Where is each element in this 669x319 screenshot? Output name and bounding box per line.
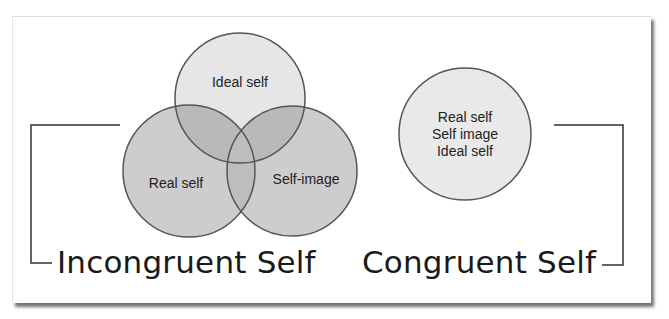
congruent-ideal-self-label: Ideal self [432,143,498,160]
congruent-self-image-label: Self image [432,126,498,143]
congruent-self-title: Congruent Self [362,247,596,278]
self-image-label: Self-image [273,171,340,188]
incongruent-self-title: Incongruent Self [57,247,316,278]
ideal-self-label: Ideal self [212,74,268,91]
congruent-circle-text: Real self Self image Ideal self [432,109,498,160]
congruent-real-self-label: Real self [432,109,498,126]
left-bracket [31,125,120,263]
real-self-label: Real self [149,175,203,192]
incongruent-venn [123,33,357,237]
